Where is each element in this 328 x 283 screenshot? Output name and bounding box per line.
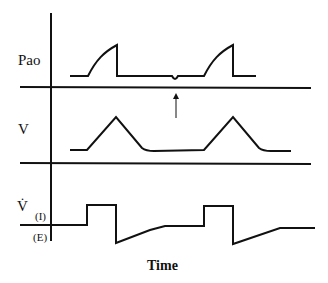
inspiration-label: (I): [35, 210, 46, 222]
volume-waveform: [70, 117, 291, 151]
flow-label: V̇: [17, 198, 28, 215]
pressure-waveform: [70, 45, 256, 79]
volume-label: V: [18, 121, 29, 138]
expiration-label: (E): [33, 231, 47, 243]
trigger-arrow-icon: [173, 93, 179, 99]
pressure-panel-divider: [20, 87, 311, 88]
x-axis-label: Time: [147, 258, 178, 274]
pressure-label: Pao: [18, 52, 41, 69]
ventilator-waveform-diagram: [0, 0, 328, 283]
volume-panel-divider: [20, 163, 311, 164]
flow-waveform: [51, 205, 315, 244]
